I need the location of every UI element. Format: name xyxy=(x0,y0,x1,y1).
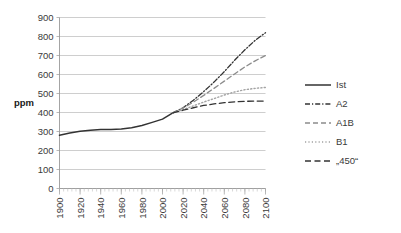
series-line-a1b xyxy=(173,56,266,113)
y-tick-label: 500 xyxy=(38,88,54,99)
x-tick-label: 2040 xyxy=(198,198,209,219)
legend-item[interactable]: A1B xyxy=(305,117,354,128)
legend-item[interactable]: A2 xyxy=(305,98,348,109)
legend-label: Ist xyxy=(336,79,346,90)
series-line-450 xyxy=(173,101,266,113)
y-tick-label: 100 xyxy=(38,164,54,175)
gridlines-group xyxy=(60,18,266,189)
y-axis-title: ppm xyxy=(14,97,34,108)
y-tick-label: 0 xyxy=(48,183,53,194)
legend-item[interactable]: „450“ xyxy=(305,155,358,166)
chart-legend: IstA2A1BB1„450“ xyxy=(305,79,358,166)
legend-label: A2 xyxy=(336,98,348,109)
y-tick-label: 900 xyxy=(38,12,54,23)
x-tick-label: 1960 xyxy=(116,198,127,219)
y-tick-label: 800 xyxy=(38,31,54,42)
legend-label: B1 xyxy=(336,136,348,147)
co2-concentration-line-chart: 0100200300400500600700800900 19001920194… xyxy=(0,0,401,233)
x-tick-label: 1940 xyxy=(95,198,106,219)
x-tick-label: 1920 xyxy=(75,198,86,219)
x-tick-label: 2080 xyxy=(240,198,251,219)
x-tick-label: 2020 xyxy=(178,198,189,219)
x-tick-label: 1900 xyxy=(54,198,65,219)
x-tick-label: 2000 xyxy=(157,198,168,219)
y-tick-label: 400 xyxy=(38,107,54,118)
legend-label: A1B xyxy=(336,117,354,128)
chart-container: 0100200300400500600700800900 19001920194… xyxy=(0,0,401,233)
y-tick-label: 700 xyxy=(38,50,54,61)
y-tick-label: 600 xyxy=(38,69,54,80)
series-line-ist xyxy=(60,113,173,135)
y-axis-tick-labels-group: 0100200300400500600700800900 xyxy=(38,12,54,194)
y-tick-label: 300 xyxy=(38,126,54,137)
x-axis-ticks-group xyxy=(60,189,266,195)
x-tick-label: 2060 xyxy=(219,198,230,219)
x-axis-tick-labels-group: 1900192019401960198020002020204020602080… xyxy=(54,198,271,219)
axes-group xyxy=(57,18,266,189)
x-tick-label: 1980 xyxy=(137,198,148,219)
x-tick-label: 2100 xyxy=(260,198,271,219)
legend-item[interactable]: Ist xyxy=(305,79,346,90)
data-series-group xyxy=(60,33,266,136)
legend-item[interactable]: B1 xyxy=(305,136,348,147)
y-tick-label: 200 xyxy=(38,145,54,156)
legend-label: „450“ xyxy=(336,155,358,166)
